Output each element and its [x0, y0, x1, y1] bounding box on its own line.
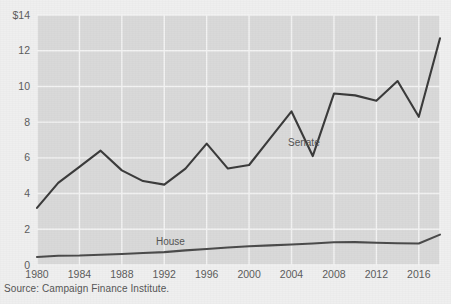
x-axis-tick-labels: 1980198419881992199620002004200820122016	[25, 268, 430, 280]
series-label-house: House	[156, 236, 185, 247]
plot-area-background	[37, 15, 440, 265]
y-tick-label: $14	[12, 9, 30, 21]
chart-figure: $14121086420 198019841988199219962000200…	[0, 0, 451, 304]
y-axis-tick-labels: $14121086420	[12, 9, 30, 271]
x-tick-label: 2012	[365, 268, 389, 280]
series-label-senate: Senate	[288, 137, 320, 148]
y-tick-label: 2	[24, 223, 30, 235]
x-tick-label: 1980	[25, 268, 49, 280]
x-tick-label: 1988	[110, 268, 134, 280]
y-tick-label: 8	[24, 116, 30, 128]
y-tick-label: 6	[24, 151, 30, 163]
y-tick-label: 12	[18, 44, 30, 56]
source-note: Source: Campaign Finance Institute.	[4, 283, 169, 294]
x-tick-label: 1992	[153, 268, 177, 280]
x-tick-label: 2000	[237, 268, 261, 280]
x-tick-label: 1984	[68, 268, 92, 280]
campaign-spending-line-chart: $14121086420 198019841988199219962000200…	[0, 0, 451, 304]
x-tick-label: 2004	[280, 268, 304, 280]
x-tick-label: 2008	[322, 268, 346, 280]
x-tick-label: 1996	[195, 268, 219, 280]
x-tick-label: 2016	[407, 268, 431, 280]
y-tick-label: 10	[18, 80, 30, 92]
y-tick-label: 4	[24, 187, 30, 199]
